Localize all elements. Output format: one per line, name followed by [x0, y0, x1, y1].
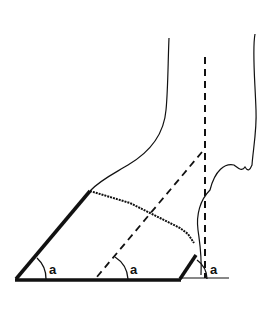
angle-label-pastern: a	[130, 262, 138, 277]
coronary-band	[90, 191, 194, 243]
angle-arc-toe	[37, 258, 46, 279]
leg-front-outline	[90, 38, 169, 191]
angle-label-heel: a	[210, 262, 218, 277]
hoof-heel	[180, 255, 196, 279]
angle-label-toe: a	[49, 262, 57, 277]
angle-arc-pastern	[115, 257, 128, 279]
diagram-canvas: a a a	[0, 0, 270, 309]
leg-back-outline	[198, 34, 257, 275]
pastern-axis-line	[96, 152, 202, 278]
hoof-diagram: a a a	[0, 0, 270, 309]
